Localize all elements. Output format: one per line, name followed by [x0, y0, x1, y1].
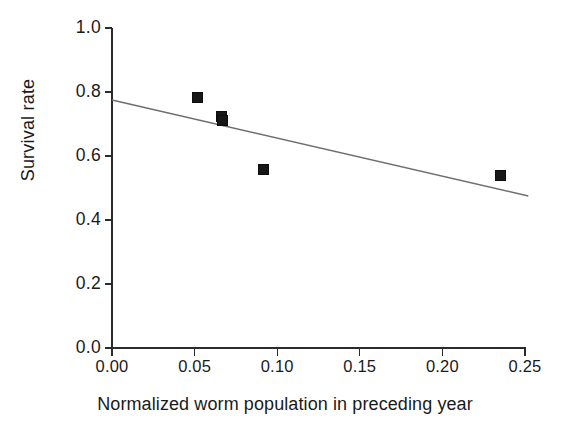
trendline-layer	[112, 28, 525, 348]
y-axis-tick-label: 0.0	[55, 339, 101, 357]
x-axis-tick	[111, 349, 112, 356]
data-point-marker	[192, 92, 203, 103]
regression-trendline	[112, 100, 528, 196]
x-axis-tick-label: 0.00	[77, 358, 147, 375]
x-axis-tick-label: 0.15	[325, 358, 395, 375]
y-axis-tick	[105, 155, 112, 156]
y-axis-tick	[105, 27, 112, 28]
x-axis-tick-label: 0.25	[490, 358, 560, 375]
plot-area	[112, 28, 525, 348]
x-axis-tick	[359, 349, 360, 356]
x-axis-tick-label: 0.05	[160, 358, 230, 375]
data-point-marker	[217, 115, 228, 126]
y-axis-tick-label: 0.8	[55, 83, 101, 101]
y-axis-tick-label: 0.4	[55, 211, 101, 229]
y-axis-tick	[105, 283, 112, 284]
scatter-plot-figure: 0.00.20.40.60.81.0 0.000.050.100.150.200…	[0, 0, 570, 433]
y-axis-tick-label: 0.6	[55, 147, 101, 165]
data-point-marker	[258, 164, 269, 175]
y-axis-tick-label: 0.2	[55, 275, 101, 293]
x-axis-tick	[524, 349, 525, 356]
y-axis-tick	[105, 91, 112, 92]
x-axis-tick	[442, 349, 443, 356]
x-axis-tick-label: 0.10	[242, 358, 312, 375]
y-axis-title: Survival rate	[19, 40, 37, 220]
x-axis-tick	[194, 349, 195, 356]
x-axis-tick-labels: 0.000.050.100.150.200.25	[0, 358, 570, 382]
x-axis-title: Normalized worm population in preceding …	[0, 395, 570, 413]
y-axis-tick-label: 1.0	[55, 19, 101, 37]
x-axis-tick-label: 0.20	[407, 358, 477, 375]
x-axis-tick	[277, 349, 278, 356]
data-point-marker	[495, 170, 506, 181]
y-axis-tick	[105, 219, 112, 220]
